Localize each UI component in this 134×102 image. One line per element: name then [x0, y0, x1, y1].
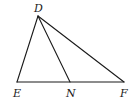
label-D: D [33, 2, 43, 15]
segment-DN [38, 16, 70, 82]
segments [17, 16, 124, 82]
segment-DE [17, 16, 38, 82]
vertex-labels: D E N F [12, 2, 128, 100]
segment-DF [38, 16, 124, 82]
label-F: F [119, 87, 128, 100]
label-E: E [12, 87, 21, 100]
triangle-diagram: D E N F [0, 0, 134, 102]
label-N: N [65, 87, 76, 100]
